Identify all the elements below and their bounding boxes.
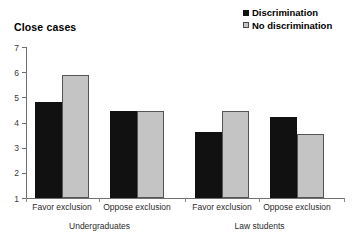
bar [270,117,297,198]
bar [222,111,249,198]
y-axis-tick-label: 6 [14,68,19,77]
y-axis-line [26,47,27,199]
bar [62,75,89,198]
y-axis-tick-label: 4 [14,119,19,128]
x-axis-tick [99,198,100,202]
x-axis-category-label: Favor exclusion [32,202,92,212]
y-axis-tick-label: 5 [14,94,19,103]
legend-item-discrimination: Discrimination [243,8,332,18]
y-axis-tick: 3 [22,148,26,149]
legend-label-no-discrimination: No discrimination [252,21,332,31]
y-axis-tick-label: 7 [14,43,19,52]
y-axis-tick: 5 [22,97,26,98]
legend-swatch-gray-square-icon [243,22,249,28]
y-axis-tick: 4 [22,123,26,124]
legend-label-discrimination: Discrimination [252,8,318,18]
bar [35,102,62,198]
y-axis-tick: 2 [22,173,26,174]
legend-item-no-discrimination: No discrimination [243,21,332,31]
page-title: Close cases [14,21,76,33]
y-axis-tick: 7 [22,47,26,48]
y-axis-tick-label: 2 [14,169,19,178]
bar-chart-figure: Close cases Discrimination No discrimina… [0,0,360,245]
x-axis-category-label: Favor exclusion [192,202,252,212]
legend-swatch-dark-square-icon [243,10,249,16]
x-axis-group-label: Undergraduates [69,221,130,231]
bar [297,134,324,198]
chart-legend: Discrimination No discrimination [243,8,332,30]
bar [110,111,137,198]
x-axis-tick [344,198,345,202]
x-axis-category-label: Oppose exclusion [263,202,331,212]
x-axis-tick [26,198,27,202]
x-axis-category-label: Oppose exclusion [103,202,171,212]
x-axis-group-label: Law students [234,221,284,231]
x-axis-tick [259,198,260,202]
y-axis-tick: 6 [22,72,26,73]
bar [137,111,164,198]
y-axis-tick-label: 1 [14,194,19,203]
plot-area: 1234567 [26,47,344,199]
y-axis-tick-label: 3 [14,144,19,153]
bar [195,132,222,198]
x-axis-tick [185,198,186,202]
